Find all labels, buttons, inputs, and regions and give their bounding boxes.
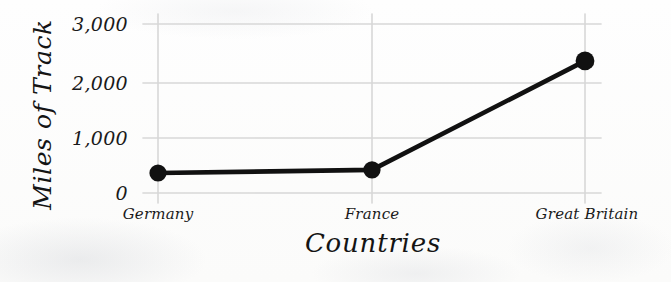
y-axis-title: Miles of Track bbox=[28, 10, 57, 220]
y-tick-label-2000: 2,000 bbox=[62, 72, 128, 94]
y-tick-label-3000: 3,000 bbox=[62, 13, 128, 35]
x-tick-label-france: France bbox=[312, 205, 432, 223]
y-tick-label-0: 0 bbox=[62, 182, 128, 204]
data-point-france[interactable] bbox=[363, 161, 380, 178]
x-axis-title: Countries bbox=[243, 228, 503, 258]
x-tick-label-germany: Germany bbox=[88, 205, 228, 223]
data-point-germany[interactable] bbox=[149, 164, 166, 181]
chart-figure: 3,000 2,000 1,000 0 Germany France Great… bbox=[0, 0, 671, 282]
data-point-great-britain[interactable] bbox=[576, 52, 595, 71]
y-tick-label-1000: 1,000 bbox=[62, 127, 128, 149]
x-tick-label-great-britain: Great Britain bbox=[512, 205, 662, 223]
